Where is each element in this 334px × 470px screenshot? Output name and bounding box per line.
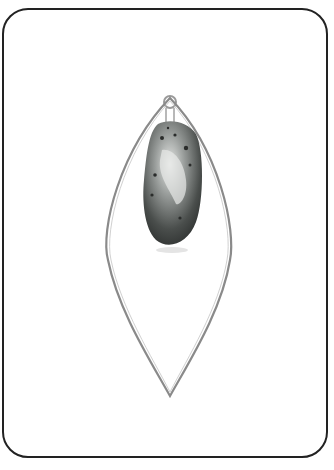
pendant-illustration <box>0 0 334 470</box>
teardrop-gemstone <box>143 121 202 253</box>
wire-wrap <box>166 108 174 122</box>
